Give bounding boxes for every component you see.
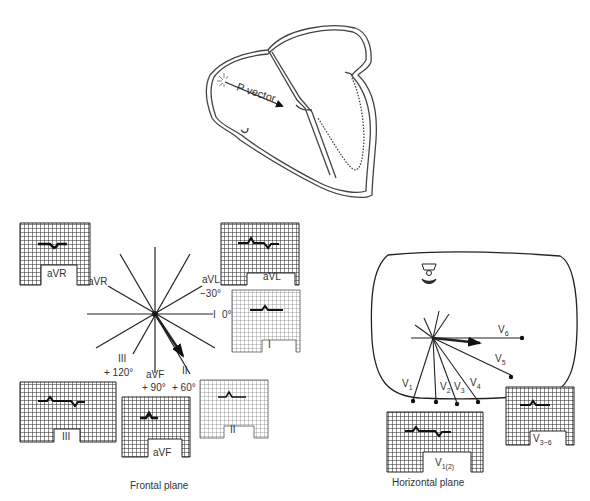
ecg-strip-iii: III <box>20 382 116 442</box>
strip-label-avf: aVF <box>153 447 171 458</box>
lead-label-v4: V4 <box>470 377 481 390</box>
frontal-plane-caption: Frontal plane <box>130 480 189 491</box>
strip-label-i: I <box>268 339 271 350</box>
sa-node-icon <box>217 73 228 87</box>
strip-label-v3-6: V3−6 <box>533 433 552 446</box>
axis-label-ii: II <box>182 365 188 376</box>
strip-label-ii: II <box>230 424 236 435</box>
axis-label-avl-degree: −30° <box>200 288 221 299</box>
lead-label-v6: V6 <box>498 324 509 337</box>
hexaxial-reference-system <box>87 247 215 374</box>
ecg-strip-avf: aVF <box>122 397 190 458</box>
axis-label-ii-degree: + 60° <box>172 382 196 393</box>
axis-label-avr: aVR <box>88 276 107 287</box>
strip-label-avr: aVR <box>47 268 66 279</box>
axis-label-avf-degree: + 90° <box>142 382 166 393</box>
lead-label-v3: V3 <box>454 381 465 394</box>
ecg-strip-i: I <box>232 290 300 352</box>
p-vector-label: P vector <box>235 80 277 104</box>
axis-label-avf: aVF <box>146 369 164 380</box>
ecg-strip-v1-2: V1(2) <box>387 412 483 472</box>
axis-label-i-degree: 0° <box>222 309 232 320</box>
lead-label-v5: V5 <box>495 353 506 366</box>
vertebra-icon <box>422 264 436 284</box>
heart-diagram <box>206 26 376 198</box>
axis-label-iii-degree: + 120° <box>104 367 133 378</box>
ecg-p-vector-figure: P vector aVR aVL −30° I 0° III + 120° aV… <box>0 0 590 501</box>
axis-label-avl: aVL <box>202 274 220 285</box>
frontal-axis-labels: aVR aVL −30° I 0° III + 120° aVF + 90° I… <box>88 274 232 393</box>
axis-label-iii: III <box>118 353 126 364</box>
ecg-strip-ii: II <box>200 380 268 438</box>
horizontal-plane-caption: Horizontal plane <box>392 477 465 488</box>
strip-label-v1-2: V1(2) <box>435 457 454 471</box>
ecg-strip-avr: aVR <box>20 223 90 285</box>
ecg-strip-v3-6: V3−6 <box>506 387 574 446</box>
strip-label-iii: III <box>62 431 70 442</box>
p-vector: P vector <box>217 73 282 106</box>
strip-label-avl: aVL <box>263 271 281 282</box>
axis-label-i: I <box>213 309 216 320</box>
lead-label-v1: V1 <box>402 378 413 391</box>
ecg-strip-avl: aVL <box>221 223 299 285</box>
